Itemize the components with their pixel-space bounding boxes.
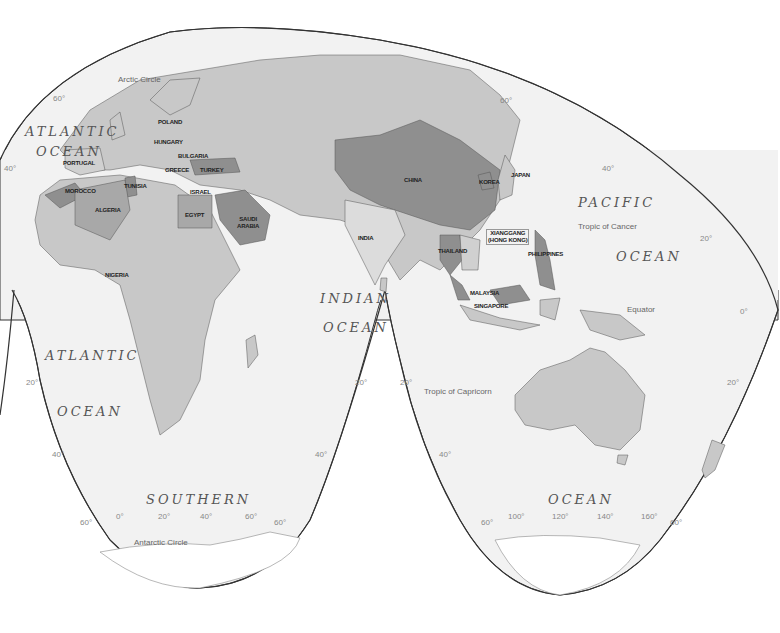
grat-60s-east: 60° xyxy=(670,518,682,527)
country-label-bulgaria: BULGARIA xyxy=(178,153,208,160)
grat-lon-100: 100° xyxy=(508,512,525,521)
country-label-israel: ISRAEL xyxy=(190,189,211,196)
country-label-thailand: THAILAND xyxy=(438,248,467,255)
grat-40s-mid-right: 40° xyxy=(439,450,451,459)
label-tropic-of-capricorn: Tropic of Capricorn xyxy=(424,387,492,396)
ocean-label-pacific-ocean: OCEAN xyxy=(616,249,682,264)
ocean-label-atlantic-south: ATLANTIC xyxy=(45,348,140,363)
country-label-nigeria: NIGERIA xyxy=(105,272,129,279)
country-label-tunisia: TUNISIA xyxy=(124,183,147,190)
country-label-portugal: PORTUGAL xyxy=(63,160,95,167)
ocean-label-atlantic-north: ATLANTIC xyxy=(25,124,120,139)
world-map xyxy=(0,0,780,633)
grat-lon-140: 140° xyxy=(597,512,614,521)
country-label-china: CHINA xyxy=(404,177,422,184)
country-label-japan: JAPAN xyxy=(511,172,530,179)
grat-20s-east: 20° xyxy=(727,378,739,387)
grat-40n-west: 40° xyxy=(4,164,16,173)
ocean-label-atlantic-south-ocean: OCEAN xyxy=(57,404,123,419)
country-label-philippines: PHILIPPINES xyxy=(528,251,563,258)
country-label-singapore: SINGAPORE xyxy=(474,303,508,310)
grat-20s-mid-right: 20° xyxy=(400,378,412,387)
ocean-label-indian-ocean: OCEAN xyxy=(323,320,389,335)
grat-60n-west: 60° xyxy=(53,94,65,103)
country-label-poland: POLAND xyxy=(158,119,182,126)
grat-60s-mid-right: 60° xyxy=(481,518,493,527)
grat-20s-mid-left: 20° xyxy=(355,378,367,387)
country-label-turkey: TURKEY xyxy=(200,167,223,174)
grat-lon-0: 0° xyxy=(116,512,124,521)
ocean-label-pacific: PACIFIC xyxy=(578,195,655,210)
grat-0-east: 0° xyxy=(740,307,748,316)
grat-lon-20: 20° xyxy=(158,512,170,521)
ocean-label-southern: SOUTHERN xyxy=(146,492,251,507)
ocean-label-indian: INDIAN xyxy=(320,291,391,306)
ocean-label-atlantic-north-ocean: OCEAN xyxy=(36,144,102,159)
country-label-greece: GREECE xyxy=(165,167,189,174)
grat-lon-120: 120° xyxy=(552,512,569,521)
country-label-india: INDIA xyxy=(358,235,373,242)
country-label-morocco: MOROCCO xyxy=(65,188,96,195)
grat-40s-west: 40° xyxy=(52,450,64,459)
country-label-algeria: ALGERIA xyxy=(95,207,121,214)
grat-lon-40: 40° xyxy=(200,512,212,521)
grat-20s-west: 20° xyxy=(26,378,38,387)
label-antarctic-circle: Antarctic Circle xyxy=(134,538,188,547)
antarctica-east xyxy=(495,535,640,595)
country-label-hungary: HUNGARY xyxy=(154,139,183,146)
grat-20n-east: 20° xyxy=(700,234,712,243)
grat-lon-160: 160° xyxy=(641,512,658,521)
grat-40n-east: 40° xyxy=(602,164,614,173)
country-label-egypt: EGYPT xyxy=(185,212,204,219)
country-label-korea: KOREA xyxy=(479,179,500,186)
grat-60s-west: 60° xyxy=(80,518,92,527)
label-equator: Equator xyxy=(627,305,655,314)
country-label-hong-kong: XIANGGANG (HONG KONG) xyxy=(486,229,529,245)
country-label-saudi-arabia: SAUDI ARABIA xyxy=(237,216,259,230)
grat-60s-mid-left: 60° xyxy=(274,518,286,527)
label-tropic-of-cancer: Tropic of Cancer xyxy=(578,222,637,231)
grat-40s-mid-left: 40° xyxy=(315,450,327,459)
grat-lon-60: 60° xyxy=(245,512,257,521)
ocean-label-southern-ocean: OCEAN xyxy=(548,492,614,507)
country-label-malaysia: MALAYSIA xyxy=(470,290,499,297)
grat-60n-east: 60° xyxy=(500,96,512,105)
label-arctic-circle: Arctic Circle xyxy=(118,75,161,84)
